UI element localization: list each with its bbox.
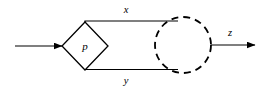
flow-diagram: p x y z — [0, 0, 266, 92]
lower-branch-line — [85, 70, 178, 71]
diagram-canvas: p x y z — [0, 0, 266, 92]
output-arrow-label: z — [227, 27, 232, 38]
dashed-circle-node — [155, 17, 211, 73]
decision-label: p — [81, 40, 88, 52]
upper-branch-label: x — [123, 4, 129, 15]
lower-branch-label: y — [123, 75, 129, 86]
upper-branch-line — [85, 21, 178, 22]
